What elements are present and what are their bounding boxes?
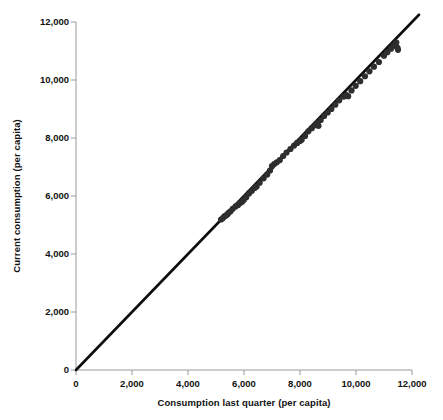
y-tick-label: 12,000 [40, 16, 69, 27]
y-tick-label: 4,000 [45, 248, 69, 259]
y-tick-label: 10,000 [40, 74, 69, 85]
data-point [362, 73, 368, 79]
x-tick-label: 10,000 [341, 378, 370, 389]
chart-canvas: 12,000 10,000 8,000 6,000 4,000 2,000 0 [0, 0, 443, 420]
data-point [357, 78, 363, 84]
y-axis-tick-labels: 12,000 10,000 8,000 6,000 4,000 2,000 0 [40, 16, 69, 375]
data-point [376, 59, 382, 65]
y-tick-label: 2,000 [45, 306, 69, 317]
data-point [348, 87, 354, 93]
x-tick-label: 0 [73, 378, 78, 389]
scatter-plot-figure: 12,000 10,000 8,000 6,000 4,000 2,000 0 [0, 0, 443, 420]
x-tick-label: 12,000 [397, 378, 426, 389]
x-tick-label: 6,000 [232, 378, 256, 389]
y-axis-title: Current consumption (per capita) [11, 119, 22, 273]
x-tick-label: 4,000 [176, 378, 200, 389]
x-axis-title: Consumption last quarter (per capita) [157, 397, 330, 408]
data-point [315, 123, 321, 129]
data-point [395, 47, 401, 53]
x-tick-label: 8,000 [288, 378, 312, 389]
data-points-group [218, 39, 401, 222]
y-tick-label: 0 [64, 364, 69, 375]
x-tick-label: 2,000 [120, 378, 144, 389]
x-axis-tick-labels: 0 2,000 4,000 6,000 8,000 10,000 12,000 [73, 378, 426, 389]
y-tick-label: 6,000 [45, 190, 69, 201]
data-point [353, 83, 359, 89]
x-axis [76, 370, 412, 375]
data-point [393, 39, 399, 45]
y-axis [71, 22, 76, 370]
data-point [366, 68, 372, 74]
data-point [371, 64, 377, 70]
y-tick-label: 8,000 [45, 132, 69, 143]
data-point [345, 93, 351, 99]
